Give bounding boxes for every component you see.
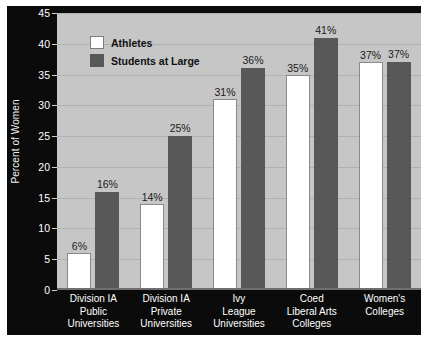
bar: 6% (67, 253, 91, 290)
white-swatch-icon (90, 36, 104, 49)
x-axis-label-line: Women's (348, 293, 421, 306)
x-axis-label-line: Public (57, 306, 130, 319)
bar-value-label: 14% (142, 191, 163, 203)
y-tick-5: 5 (44, 253, 50, 265)
bar-group: 37%37% (348, 13, 421, 290)
y-axis-title: Percent of Women (7, 6, 23, 276)
x-axis-label-line: Colleges (275, 318, 348, 331)
y-tick-20: 20 (38, 161, 50, 173)
x-axis-label-line: Coed (275, 293, 348, 306)
y-tick-35: 35 (38, 69, 50, 81)
x-axis-label-line: Division IA (130, 293, 203, 306)
bar: 16% (95, 192, 119, 290)
bar-group: 35%41% (275, 13, 348, 290)
bar-value-label: 41% (315, 24, 336, 36)
x-axis-label-line: Universities (203, 318, 276, 331)
x-axis-label-line: Ivy (203, 293, 276, 306)
x-axis-label: Division IAPrivateUniversities (130, 293, 203, 331)
x-axis-label: IvyLeagueUniversities (203, 293, 276, 331)
bar-value-label: 36% (242, 54, 263, 66)
bar: 37% (359, 62, 383, 290)
bar-value-label: 6% (72, 240, 87, 252)
x-axis-label-line: Division IA (57, 293, 130, 306)
bar: 36% (241, 68, 265, 290)
y-axis-tick-labels: 454035302520151050 (23, 13, 57, 290)
y-axis-title-label: Percent of Women (10, 99, 21, 183)
x-axis-label: Division IAPublicUniversities (57, 293, 130, 331)
bar-value-label: 35% (287, 62, 308, 74)
x-axis-label-line: Colleges (348, 306, 421, 319)
x-axis-label-line: Private (130, 306, 203, 319)
y-tick-40: 40 (38, 38, 50, 50)
y-tick-25: 25 (38, 130, 50, 142)
dark-gray-swatch-icon (90, 54, 104, 67)
y-tick-45: 45 (38, 7, 50, 19)
y-tick-30: 30 (38, 99, 50, 111)
x-axis-category-labels: Division IAPublicUniversitiesDivision IA… (57, 293, 421, 335)
bar-value-label: 25% (170, 122, 191, 134)
x-axis-label-line: Liberal Arts (275, 306, 348, 319)
bar: 31% (213, 99, 237, 290)
x-axis-label-line: Universities (130, 318, 203, 331)
bar: 41% (314, 38, 338, 290)
bar-value-label: 31% (214, 86, 235, 98)
chart-legend: Athletes Students at Large (90, 35, 200, 71)
bar: 14% (140, 204, 164, 290)
plot-area: 6%16%14%25%31%36%35%41%37%37% Athletes S… (57, 13, 421, 290)
y-tick-0: 0 (44, 284, 50, 296)
bar: 37% (387, 62, 411, 290)
x-axis-label: CoedLiberal ArtsColleges (275, 293, 348, 331)
bar-value-label: 37% (388, 48, 409, 60)
y-tick-10: 10 (38, 222, 50, 234)
bar-value-label: 37% (360, 49, 381, 61)
legend-label-athletes: Athletes (111, 37, 152, 49)
bar: 35% (286, 75, 310, 290)
legend-item-athletes: Athletes (90, 35, 200, 50)
bar: 25% (168, 136, 192, 290)
x-axis-label-line: Universities (57, 318, 130, 331)
x-axis-label-line: League (203, 306, 276, 319)
chart-figure: Percent of Women 454035302520151050 6%16… (7, 6, 421, 335)
legend-item-students-at-large: Students at Large (90, 53, 200, 68)
axis-baseline (57, 288, 421, 290)
bar-value-label: 16% (97, 178, 118, 190)
legend-label-students-at-large: Students at Large (111, 55, 200, 67)
bar-group: 31%36% (203, 13, 276, 290)
y-tick-15: 15 (38, 192, 50, 204)
x-axis-label: Women'sColleges (348, 293, 421, 318)
